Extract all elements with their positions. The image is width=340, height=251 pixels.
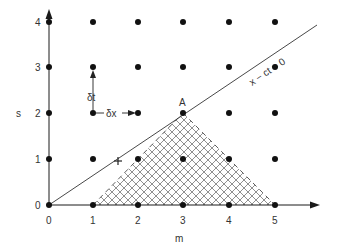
y-axis-label: s bbox=[16, 108, 21, 119]
delta-t-label: δt bbox=[87, 92, 96, 103]
diagram-canvas: x − ct = 0 δt bbox=[0, 0, 340, 251]
svg-text:1: 1 bbox=[90, 215, 96, 226]
svg-text:5: 5 bbox=[272, 215, 278, 226]
delta-x-label: δx bbox=[106, 108, 117, 119]
delta-t-arrow-icon bbox=[90, 70, 96, 111]
svg-text:0: 0 bbox=[35, 200, 41, 211]
characteristic-line-label: x − ct = 0 bbox=[247, 55, 288, 87]
svg-text:0: 0 bbox=[46, 215, 52, 226]
x-tick-labels: 0 1 2 3 4 5 bbox=[46, 215, 278, 226]
svg-text:1: 1 bbox=[35, 154, 41, 165]
y-tick-labels: 0 1 2 3 4 bbox=[35, 17, 41, 211]
svg-text:3: 3 bbox=[35, 62, 41, 73]
svg-text:2: 2 bbox=[35, 108, 41, 119]
y-axis-arrow-icon bbox=[46, 9, 53, 19]
point-a-label: A bbox=[179, 97, 186, 108]
svg-text:2: 2 bbox=[135, 215, 141, 226]
y-axis bbox=[46, 9, 53, 205]
x-axis-arrow-icon bbox=[310, 202, 320, 209]
svg-text:3: 3 bbox=[180, 215, 186, 226]
svg-text:4: 4 bbox=[226, 215, 232, 226]
cross-marker-icon bbox=[114, 157, 122, 165]
x-axis-label: m bbox=[175, 233, 183, 244]
svg-text:4: 4 bbox=[35, 17, 41, 28]
grid-diagram: x − ct = 0 δt bbox=[0, 0, 340, 251]
